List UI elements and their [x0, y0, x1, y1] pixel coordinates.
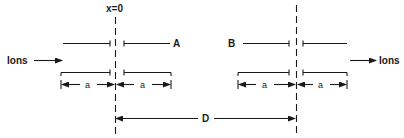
- electrode-b-dimensions: [238, 80, 347, 89]
- dim-d-label: D: [202, 113, 209, 124]
- electrode-a-top: [63, 41, 170, 47]
- electrode-b-top: [243, 41, 347, 47]
- electrode-a-label: A: [173, 38, 180, 49]
- ions-in-label: Ions: [7, 55, 28, 66]
- dim-a-left-1: a: [85, 80, 90, 90]
- electrode-b-bottom: [238, 70, 347, 77]
- dim-a-right-1: a: [262, 80, 267, 90]
- lens-geometry-diagram: x=0 A Ions a a B Ions: [0, 0, 404, 138]
- electrode-b-label: B: [228, 38, 235, 49]
- ions-out-label: Ions: [379, 55, 400, 66]
- dim-a-right-2: a: [318, 80, 323, 90]
- dim-a-left-2: a: [140, 80, 145, 90]
- origin-label: x=0: [106, 3, 123, 14]
